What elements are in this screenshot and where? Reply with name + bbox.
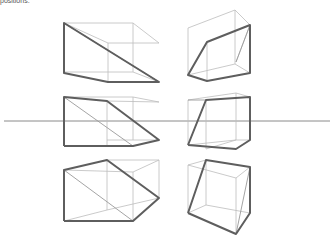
box-top-right: [188, 10, 250, 81]
box-section-outline: [188, 97, 250, 149]
box-bottom-right: [188, 160, 250, 234]
box-top-left: [64, 23, 159, 82]
box-edges-thin: [188, 160, 250, 234]
perspective-boxes-diagram: [0, 0, 332, 237]
box-section-outline: [188, 160, 250, 234]
box-group: [64, 10, 250, 234]
box-bottom-left: [64, 160, 159, 221]
box-diagonal: [64, 170, 133, 221]
box-edges-thin: [188, 10, 250, 81]
box-section-outline: [64, 160, 159, 221]
